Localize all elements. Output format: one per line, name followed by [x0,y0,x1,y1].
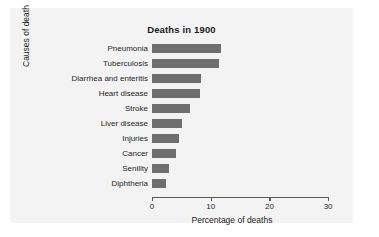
x-axis-tick [328,197,329,201]
bar [152,149,176,158]
bar-category-label: Heart disease [99,86,152,101]
y-axis-title: Causes of death [21,5,31,67]
bar-category-label: Tuberculosis [103,56,152,71]
bar-category-label: Cancer [122,146,152,161]
plot-area: PneumoniaTuberculosisDiarrhea and enteri… [152,41,352,201]
x-axis-line [152,197,328,198]
x-axis-tick [211,197,212,201]
chart-title: Deaths in 1900 [11,24,352,35]
bar-category-label: Pneumonia [108,41,152,56]
bar [152,164,169,173]
bar-category-label: Diarrhea and enteritis [72,71,152,86]
bar-category-label: Stroke [125,101,152,116]
chart-figure: Deaths in 1900 Causes of death Pneumonia… [0,0,379,237]
bar-category-label: Liver disease [101,116,152,131]
x-axis-tick-label: 30 [324,202,333,211]
x-axis-tick-label: 10 [206,202,215,211]
x-axis-tick [269,197,270,201]
chart-panel: Deaths in 1900 Causes of death Pneumonia… [11,9,352,222]
bar [152,179,166,188]
bar [152,74,201,83]
bar-category-label: Injuries [122,131,152,146]
bar [152,59,219,68]
bar [152,119,182,128]
bar [152,44,221,53]
x-axis-tick-label: 20 [265,202,274,211]
bar [152,89,200,98]
bar-category-label: Senility [122,161,152,176]
bar [152,104,190,113]
bar-category-label: Diphtheria [112,176,152,191]
x-axis-tick [152,197,153,201]
bar [152,134,179,143]
x-axis-tick-label: 0 [150,202,154,211]
x-axis-title: Percentage of deaths [132,215,332,225]
